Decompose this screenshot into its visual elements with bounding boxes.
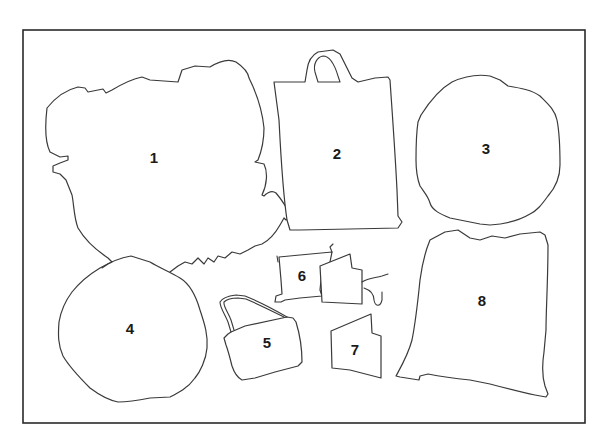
item-label-7: 7 (351, 342, 359, 357)
shape-item-6a-string (330, 244, 333, 252)
shape-item-6b-string (362, 274, 388, 305)
diagram-drawing (0, 0, 605, 448)
shape-item-8 (396, 230, 548, 397)
item-label-6: 6 (298, 268, 306, 283)
shape-item-1 (46, 60, 292, 275)
diagram-canvas: 1 2 3 4 5 6 7 8 (0, 0, 605, 448)
item-label-3: 3 (482, 141, 490, 156)
item-label-2: 2 (333, 146, 341, 161)
item-label-4: 4 (126, 321, 134, 336)
item-label-1: 1 (150, 150, 158, 165)
item-label-5: 5 (263, 335, 271, 350)
shape-item-6a-knot (277, 256, 278, 262)
item-label-8: 8 (478, 293, 486, 308)
